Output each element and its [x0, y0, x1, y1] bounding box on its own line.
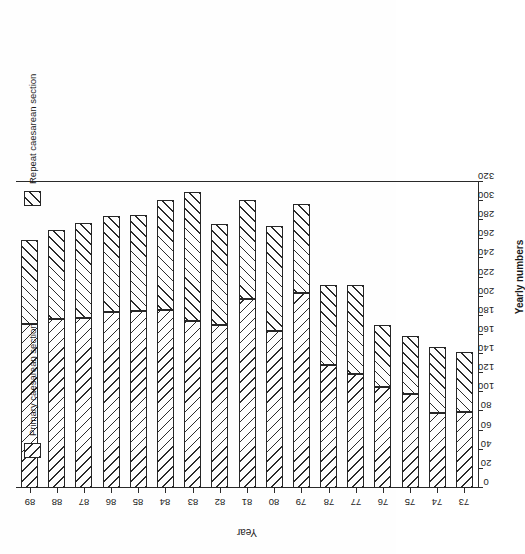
bar-segment-repeat[interactable]: [48, 230, 65, 319]
bar-segment-repeat[interactable]: [184, 192, 201, 321]
bar-segment-repeat[interactable]: [239, 200, 256, 298]
value-tick-label: 0: [483, 477, 488, 488]
value-tick-label: 220: [478, 267, 494, 278]
value-tick-label: 200: [478, 286, 494, 297]
value-axis-title: Yearly numbers: [514, 240, 525, 314]
bar-row[interactable]: [347, 0, 364, 554]
value-tick-label: 320: [478, 171, 494, 182]
bar-segment-primary[interactable]: [402, 394, 419, 488]
legend-label-primary: Primary caesarean section: [27, 324, 38, 436]
bar-row[interactable]: [130, 0, 147, 554]
bar-segment-repeat[interactable]: [130, 215, 147, 312]
value-tick: [478, 487, 483, 488]
bar-segment-repeat[interactable]: [374, 325, 391, 386]
bar-segment-repeat[interactable]: [75, 223, 92, 318]
bar-row[interactable]: [320, 0, 337, 554]
bar-row[interactable]: [103, 0, 120, 554]
bar-row[interactable]: [48, 0, 65, 554]
value-tick-label: 140: [478, 343, 494, 354]
bar-segment-repeat[interactable]: [266, 226, 283, 331]
bar-row[interactable]: [402, 0, 419, 554]
bar-segment-repeat[interactable]: [429, 347, 446, 413]
bar-segment-primary[interactable]: [429, 413, 446, 488]
bar-row[interactable]: [184, 0, 201, 554]
bar-segment-primary[interactable]: [266, 331, 283, 488]
bar-row[interactable]: [211, 0, 228, 554]
value-tick-label: 280: [478, 209, 494, 220]
value-tick-label: 80: [481, 401, 492, 412]
bar-row[interactable]: [157, 0, 174, 554]
category-axis-title: Year: [237, 527, 257, 538]
bar-segment-primary[interactable]: [130, 311, 147, 488]
bar-segment-primary[interactable]: [157, 310, 174, 488]
bar-row[interactable]: [293, 0, 310, 554]
value-tick-label: 120: [478, 362, 494, 373]
bar-segment-primary[interactable]: [48, 319, 65, 488]
value-tick-label: 180: [478, 305, 494, 316]
legend-item-repeat[interactable]: Repeat caesarean section: [24, 74, 41, 206]
bar-segment-primary[interactable]: [211, 325, 228, 488]
value-tick-label: 60: [481, 420, 492, 431]
legend-item-primary[interactable]: Primary caesarean section: [24, 324, 41, 458]
value-tick-label: 100: [478, 381, 494, 392]
bar-segment-repeat[interactable]: [293, 204, 310, 293]
bar-segment-repeat[interactable]: [402, 336, 419, 394]
bar-segment-repeat[interactable]: [157, 200, 174, 310]
legend-swatch-primary-icon: [24, 443, 41, 458]
value-tick-label: 300: [478, 190, 494, 201]
value-tick-label: 20: [481, 458, 492, 469]
bar-row[interactable]: [429, 0, 446, 554]
bar-segment-repeat[interactable]: [211, 224, 228, 325]
legend-swatch-repeat-icon: [24, 191, 41, 206]
bar-row[interactable]: [456, 0, 473, 554]
bar-segment-primary[interactable]: [456, 412, 473, 488]
bar-segment-repeat[interactable]: [103, 216, 120, 312]
bar-segment-repeat[interactable]: [21, 240, 38, 323]
bar-row[interactable]: [75, 0, 92, 554]
bar-segment-primary[interactable]: [239, 299, 256, 488]
bar-segment-primary[interactable]: [103, 312, 120, 488]
bar-segment-primary[interactable]: [374, 387, 391, 488]
bar-row[interactable]: [374, 0, 391, 554]
value-tick-label: 240: [478, 248, 494, 259]
bar-segment-repeat[interactable]: [320, 285, 337, 364]
bar-segment-primary[interactable]: [184, 321, 201, 488]
bar-row[interactable]: [239, 0, 256, 554]
bar-segment-primary[interactable]: [320, 365, 337, 488]
bar-segment-primary[interactable]: [347, 374, 364, 488]
bar-segment-repeat[interactable]: [456, 352, 473, 412]
bar-segment-primary[interactable]: [75, 318, 92, 488]
value-tick-label: 260: [478, 228, 494, 239]
value-tick-label: 40: [481, 439, 492, 450]
bar-segment-repeat[interactable]: [347, 285, 364, 374]
bar-row[interactable]: [266, 0, 283, 554]
legend-label-repeat: Repeat caesarean section: [27, 74, 38, 184]
bar-segment-primary[interactable]: [293, 293, 310, 488]
value-tick-label: 160: [478, 324, 494, 335]
